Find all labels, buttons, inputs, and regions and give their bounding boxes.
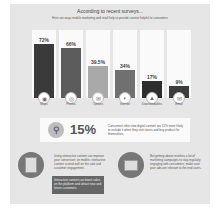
stat-value: 15% (70, 122, 96, 137)
bar-value-label: 39.5% (86, 59, 110, 65)
chart-title: According to recent surveys... (10, 8, 210, 14)
category-label: Options (83, 102, 113, 106)
bar-column: 72%◉ (32, 30, 56, 98)
bar (34, 44, 54, 98)
magnifier-chart-icon: ⚲ (48, 122, 64, 138)
bar-column: 39.5%✉ (86, 30, 110, 98)
bar-column: 17%▲ (140, 30, 164, 98)
stat-callout: ⚲ 15% Consumers who view digital content… (40, 118, 190, 142)
bar (61, 48, 81, 98)
category-label: Email (164, 102, 194, 106)
category-label: Photos (56, 102, 86, 106)
bar-value-label: 17% (140, 74, 164, 80)
screens-icon (118, 152, 144, 178)
right-note: But getting above involves a lot of mark… (150, 154, 206, 170)
category-label: Downloadables (137, 102, 167, 106)
bar-column: 9%✉ (167, 30, 191, 98)
bar-column: 66%◎ (59, 30, 83, 98)
tablet-icon (18, 152, 44, 178)
bar-value-label: 66% (59, 41, 83, 47)
left-highlight-box: Interactive content can boost sales on t… (52, 176, 104, 194)
stat-text: Consumers who view digital content are 1… (108, 124, 186, 136)
infographic-panel: According to recent surveys... Here are … (10, 4, 210, 204)
bar-value-label: 34% (113, 63, 137, 69)
chart-subtitle: Here are ways mobile marketing and retai… (10, 16, 210, 20)
bar-value-label: 9% (167, 79, 191, 85)
bar-column: 34%◐ (113, 30, 137, 98)
bar-value-label: 72% (32, 37, 56, 43)
left-note: Using interactive content can improve yo… (54, 154, 110, 170)
category-label: Maps (29, 102, 59, 106)
category-label: Internet (110, 102, 140, 106)
